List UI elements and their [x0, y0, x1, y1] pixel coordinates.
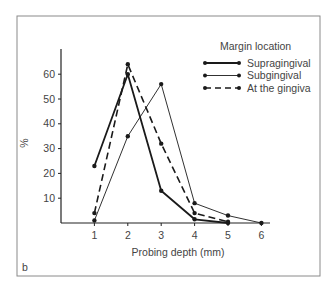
data-point-subgingival — [92, 218, 96, 222]
data-point-at-the-gingiva — [226, 220, 230, 224]
data-point-at-the-gingiva — [126, 62, 130, 66]
chart: 123456102030405060 % Probing depth (mm) … — [0, 0, 335, 290]
data-point-subgingival — [192, 201, 196, 205]
x-tick-label: 3 — [158, 229, 164, 241]
legend-swatch-dot — [203, 86, 207, 90]
x-tick-label: 1 — [91, 229, 97, 241]
legend-title: Margin location — [220, 40, 291, 52]
data-point-supragingival — [159, 189, 163, 193]
y-tick-label: 10 — [43, 192, 55, 204]
panel-label: b — [22, 261, 28, 273]
y-axis-title: % — [18, 138, 30, 147]
legend-label: Supragingival — [247, 57, 311, 69]
x-tick-label: 2 — [125, 229, 131, 241]
y-tick-label: 60 — [43, 68, 55, 80]
data-point-subgingival — [126, 134, 130, 138]
data-point-at-the-gingiva — [159, 141, 163, 145]
legend-swatch-dot — [237, 74, 241, 78]
y-tick-label: 30 — [43, 142, 55, 154]
legend-swatch-dot — [203, 74, 207, 78]
legend-item-subgingival: Subgingival — [203, 69, 301, 81]
y-tick-label: 40 — [43, 117, 55, 129]
legend-label: Subgingival — [247, 69, 301, 81]
series-line-supragingival — [94, 74, 228, 223]
data-point-subgingival — [226, 213, 230, 217]
data-point-supragingival — [192, 217, 196, 221]
data-point-subgingival — [259, 221, 263, 225]
legend-item-at-the-gingiva: At the gingiva — [203, 82, 311, 94]
legend-swatch-dot — [237, 86, 241, 90]
x-tick-label: 5 — [225, 229, 231, 241]
axes: 123456102030405060 — [43, 49, 270, 241]
legend-swatch-dot — [237, 61, 241, 65]
series-supragingival — [92, 72, 230, 225]
data-point-supragingival — [92, 164, 96, 168]
y-tick-label: 50 — [43, 93, 55, 105]
data-point-subgingival — [159, 82, 163, 86]
x-tick-label: 6 — [258, 229, 264, 241]
legend: Margin location SupragingivalSubgingival… — [203, 40, 311, 94]
legend-item-supragingival: Supragingival — [203, 57, 311, 69]
y-tick-label: 20 — [43, 167, 55, 179]
figure-frame — [17, 16, 320, 276]
legend-swatch-dot — [203, 61, 207, 65]
x-axis-title: Probing depth (mm) — [132, 246, 225, 258]
data-point-at-the-gingiva — [92, 211, 96, 215]
data-point-at-the-gingiva — [192, 211, 196, 215]
x-tick-label: 4 — [192, 229, 198, 241]
series-at-the-gingiva — [92, 62, 230, 224]
legend-label: At the gingiva — [247, 82, 311, 94]
